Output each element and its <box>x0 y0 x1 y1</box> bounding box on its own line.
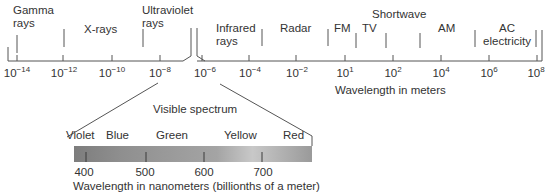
axis-title-nanometers: Wavelength in nanometers (billionths of … <box>73 180 320 193</box>
nm-tick-label: 700 <box>253 166 272 178</box>
nm-tick-label: 500 <box>135 166 154 178</box>
nm-tick-label: 400 <box>74 166 93 178</box>
nm-tick-label: 600 <box>194 166 213 178</box>
